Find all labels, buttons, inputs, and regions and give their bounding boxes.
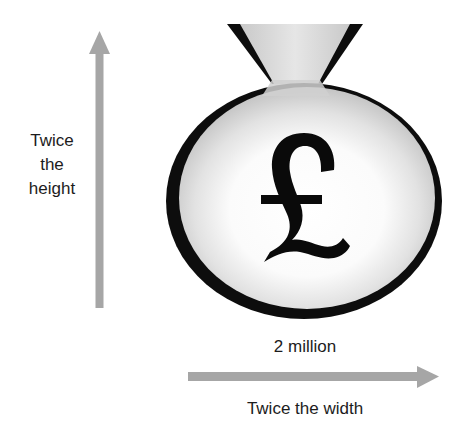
money-bag-scaling-diagram: Twice the height 2 million Twice the wid…: [0, 0, 469, 437]
money-bag-icon: [166, 24, 442, 319]
vertical-arrow-icon: [89, 31, 110, 308]
height-label-line-2: the: [12, 153, 92, 177]
height-label: Twice the height: [12, 129, 92, 201]
amount-label: 2 million: [225, 335, 385, 359]
height-label-line-1: Twice: [12, 129, 92, 153]
diagram-canvas: [0, 0, 469, 437]
height-label-line-3: height: [12, 177, 92, 201]
width-label: Twice the width: [205, 397, 405, 421]
horizontal-arrow-icon: [188, 366, 439, 388]
